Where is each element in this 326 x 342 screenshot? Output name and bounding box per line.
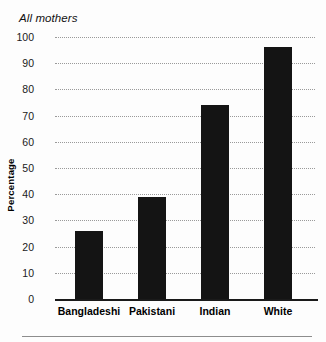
x-tick-label: White [233, 305, 323, 317]
plot-area: 0102030405060708090100 [55, 37, 315, 299]
y-tick-label: 60 [0, 137, 34, 148]
gridline [55, 37, 315, 38]
y-tick-label: 30 [0, 215, 34, 226]
y-tick-label: 40 [0, 189, 34, 200]
bar-pakistani [138, 197, 166, 299]
y-tick-label: 80 [0, 84, 34, 95]
y-tick-label: 90 [0, 58, 34, 69]
y-tick-label: 20 [0, 242, 34, 253]
chart-title: All mothers [19, 12, 78, 24]
bar-indian [201, 105, 229, 299]
footer-rule [22, 336, 312, 337]
x-axis-line [55, 299, 318, 301]
y-tick-label: 70 [0, 111, 34, 122]
y-tick-label: 50 [0, 163, 34, 174]
y-tick-label: 0 [0, 294, 34, 305]
y-tick-label: 10 [0, 268, 34, 279]
y-tick-label: 100 [0, 32, 34, 43]
chart-figure: All mothers Percentage 01020304050607080… [0, 0, 326, 342]
bar-white [264, 47, 292, 299]
bar-bangladeshi [75, 231, 103, 299]
